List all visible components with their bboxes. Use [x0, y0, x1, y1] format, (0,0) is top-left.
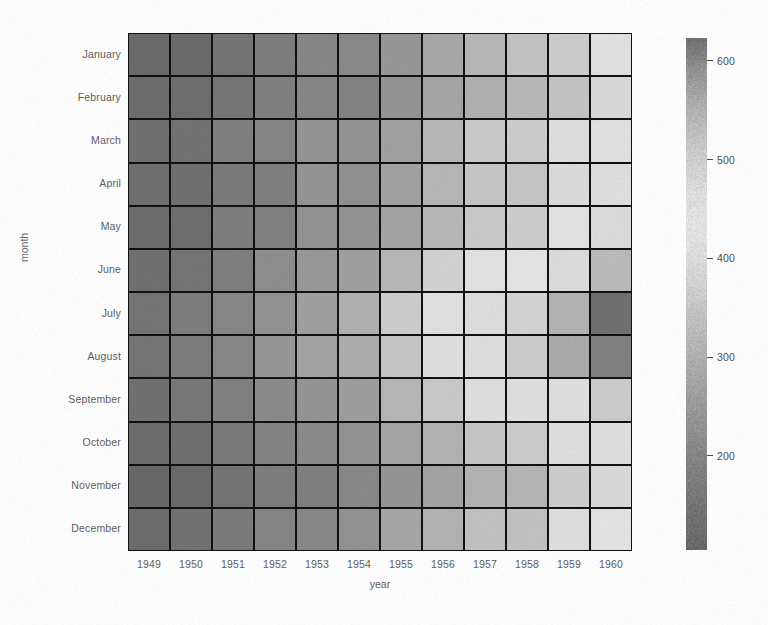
heatmap-cell [381, 77, 421, 118]
heatmap-cell [423, 250, 463, 291]
heatmap-cell [339, 423, 379, 464]
heatmap-cell [465, 423, 505, 464]
heatmap-cell [549, 379, 589, 420]
heatmap-cell [297, 77, 337, 118]
heatmap-cell [339, 120, 379, 161]
heatmap-cell [213, 423, 253, 464]
x-tick-label-1958: 1958 [506, 558, 548, 574]
heatmap-cell [507, 164, 547, 205]
heatmap-cell [381, 379, 421, 420]
heatmap-cell [549, 423, 589, 464]
heatmap-cell [213, 379, 253, 420]
heatmap-cell [339, 250, 379, 291]
heatmap-cell [591, 423, 631, 464]
heatmap-cell [297, 293, 337, 334]
heatmap-cell [465, 379, 505, 420]
colorbar-tick-mark [707, 159, 713, 160]
heatmap-cell [507, 336, 547, 377]
heatmap-cell [255, 466, 295, 507]
heatmap-cell [339, 379, 379, 420]
heatmap-cell [465, 293, 505, 334]
heatmap-cell [423, 164, 463, 205]
colorbar-tick-labels: 600500400300200 [707, 38, 767, 550]
heatmap-cell [213, 250, 253, 291]
heatmap-cell [213, 207, 253, 248]
heatmap-cell [549, 120, 589, 161]
y-tick-label-april: April [0, 178, 121, 189]
heatmap-cell [297, 207, 337, 248]
y-tick-label-may: May [0, 221, 121, 232]
heatmap-cell [549, 509, 589, 550]
colorbar-tick-value: 200 [717, 450, 735, 462]
heatmap-cell [129, 423, 169, 464]
heatmap-cell [591, 164, 631, 205]
heatmap-cell [465, 509, 505, 550]
heatmap-cell [381, 423, 421, 464]
heatmap-cell [129, 77, 169, 118]
heatmap-cell [129, 336, 169, 377]
x-tick-label-1950: 1950 [170, 558, 212, 574]
heatmap-cell [549, 207, 589, 248]
heatmap-figure: JanuaryFebruaryMarchAprilMayJuneJulyAugu… [0, 0, 768, 625]
heatmap-cell [381, 34, 421, 75]
heatmap-cell [381, 207, 421, 248]
heatmap-cell [213, 509, 253, 550]
y-tick-labels: JanuaryFebruaryMarchAprilMayJuneJulyAugu… [0, 33, 121, 551]
heatmap-cell [591, 77, 631, 118]
y-tick-label-january: January [0, 49, 121, 60]
heatmap-cell [507, 207, 547, 248]
heatmap-cell [297, 509, 337, 550]
heatmap-cell [549, 164, 589, 205]
heatmap-cell [171, 77, 211, 118]
heatmap-cell [507, 293, 547, 334]
heatmap-cell [465, 164, 505, 205]
heatmap-cell [591, 250, 631, 291]
heatmap-cell [381, 250, 421, 291]
colorbar-tick-value: 600 [717, 55, 735, 67]
heatmap-cell [423, 34, 463, 75]
heatmap-cell [255, 34, 295, 75]
x-tick-label-1952: 1952 [254, 558, 296, 574]
colorbar-tick-300: 300 [707, 350, 735, 362]
colorbar-tick-mark [707, 455, 713, 456]
heatmap-cell [297, 250, 337, 291]
heatmap-cell [297, 34, 337, 75]
heatmap-cell [591, 293, 631, 334]
heatmap-cell [213, 466, 253, 507]
colorbar-tick-400: 400 [707, 251, 735, 263]
heatmap-cell [381, 466, 421, 507]
heatmap-cell [255, 509, 295, 550]
heatmap-cell [171, 250, 211, 291]
heatmap-cell [129, 509, 169, 550]
heatmap-cell [381, 336, 421, 377]
heatmap-cell [297, 164, 337, 205]
heatmap-cell [171, 509, 211, 550]
heatmap-cell [465, 207, 505, 248]
heatmap-cell [213, 120, 253, 161]
heatmap-cell [339, 293, 379, 334]
heatmap-cell [549, 34, 589, 75]
heatmap-cell [591, 509, 631, 550]
heatmap-cell [465, 336, 505, 377]
heatmap-cell [297, 466, 337, 507]
heatmap-cell [549, 77, 589, 118]
heatmap-cell [129, 250, 169, 291]
heatmap-cell [507, 250, 547, 291]
colorbar-tick-value: 300 [717, 351, 735, 363]
y-tick-label-june: June [0, 264, 121, 275]
heatmap-cell [339, 207, 379, 248]
heatmap-cell [339, 509, 379, 550]
heatmap-cell [171, 34, 211, 75]
heatmap-cell [549, 250, 589, 291]
heatmap-cell [255, 379, 295, 420]
heatmap-cell [255, 164, 295, 205]
heatmap-cell [507, 34, 547, 75]
heatmap-cell [255, 336, 295, 377]
heatmap-cell [171, 379, 211, 420]
colorbar-tick-value: 500 [717, 153, 735, 165]
heatmap-cell [507, 120, 547, 161]
heatmap-cell [465, 466, 505, 507]
heatmap-cell [129, 466, 169, 507]
heatmap-cell [339, 466, 379, 507]
heatmap-cell [423, 77, 463, 118]
